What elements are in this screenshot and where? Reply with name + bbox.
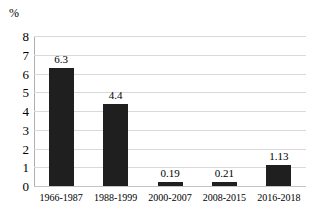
gridline: [34, 111, 306, 112]
x-axis-category-label: 2000-2007: [140, 192, 200, 203]
bar: [103, 104, 128, 187]
bar-value-label: 0.19: [140, 168, 200, 179]
x-axis-category-label: 1988-1999: [86, 192, 146, 203]
y-axis-tick-label: 5: [5, 86, 29, 99]
y-axis-tick-label: 4: [5, 105, 29, 118]
bar-value-label: 1.13: [249, 151, 309, 162]
x-axis-category-label: 2016-2018: [249, 192, 309, 203]
gridline: [34, 186, 306, 187]
gridline: [34, 92, 306, 93]
gridline: [34, 36, 306, 37]
bar-chart: % 0123456786.31966-19874.41988-19990.192…: [0, 0, 313, 214]
gridline: [34, 130, 306, 131]
bar-value-label: 0.21: [194, 168, 254, 179]
bar-value-label: 4.4: [86, 90, 146, 101]
y-axis-tick-label: 1: [5, 161, 29, 174]
y-axis-tick-label: 0: [5, 180, 29, 193]
y-axis-tick-label: 8: [5, 30, 29, 43]
bar: [158, 182, 183, 186]
bar: [212, 182, 237, 186]
y-axis-tick-label: 2: [5, 143, 29, 156]
gridline: [34, 149, 306, 150]
x-axis-category-label: 1966-1987: [31, 192, 91, 203]
y-axis-tick-label: 7: [5, 49, 29, 62]
bar: [266, 165, 291, 186]
y-axis-tick-label: 3: [5, 124, 29, 137]
x-axis-category-label: 2008-2015: [194, 192, 254, 203]
y-axis-unit-label: %: [9, 7, 19, 19]
gridline: [34, 74, 306, 75]
bar: [49, 68, 74, 186]
y-axis-tick-label: 6: [5, 68, 29, 81]
bar-value-label: 6.3: [31, 54, 91, 65]
